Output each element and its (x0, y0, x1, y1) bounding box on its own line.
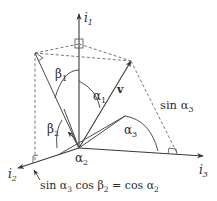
construction-lines (35, 53, 125, 155)
label-i2: i2 (8, 167, 17, 183)
label-alpha1: α1 (93, 89, 106, 105)
angle-arcs (55, 70, 158, 151)
label-i3: i3 (199, 163, 208, 179)
direction-cosines-diagram: i1 i2 i3 v β1 α1 β2 α2 α3 sin α3 sin α3 … (0, 0, 217, 201)
axis-i2 (18, 148, 79, 168)
label-alpha2: α2 (75, 151, 88, 167)
label-beta2: β2 (47, 122, 59, 138)
label-identity: sin α3 cos β2 = cos α2 (40, 179, 159, 194)
label-i1: i1 (84, 11, 93, 27)
label-alpha3: α3 (124, 123, 137, 139)
label-v: v (116, 83, 124, 96)
label-beta1: β1 (55, 67, 67, 83)
label-sin-alpha3: sin α3 (160, 98, 194, 114)
axis-i3 (79, 148, 203, 156)
